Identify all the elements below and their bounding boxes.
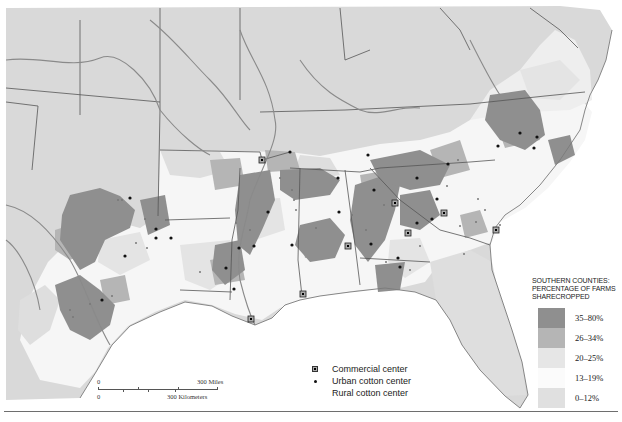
legend-title: SOUTHERN COUNTIES: PERCENTAGE OF FARMS S…: [532, 277, 622, 301]
scale-miles-label: 300 Miles: [197, 378, 223, 385]
scale-tick: [178, 387, 179, 390]
symbol-label: Urban cotton center: [332, 376, 411, 386]
scale-tick: [175, 389, 176, 392]
scale-tick: [98, 387, 99, 390]
scale-tick: [123, 389, 124, 392]
symbol-commercial-center: Commercial center: [318, 363, 411, 375]
symbol-urban-cotton-center: Urban cotton center: [318, 375, 411, 387]
legend-label: 35–80%: [575, 313, 603, 323]
scale-km-label: 300 Kilometers: [167, 393, 207, 400]
scale-tick: [138, 387, 139, 390]
legend-label: 26–34%: [575, 333, 603, 343]
legend-label: 13–19%: [575, 373, 603, 383]
legend-label: 0–12%: [575, 393, 599, 403]
commercial-center-icon: [312, 366, 318, 372]
legend-title-line: PERCENTAGE OF FARMS: [532, 285, 622, 293]
scale-line: [98, 389, 218, 390]
legend-class-35-80: 35–80%: [538, 308, 622, 328]
legend-swatch: [538, 368, 565, 388]
legend-title-line: SHARECROPPED: [532, 293, 622, 301]
bottom-rule: [4, 411, 618, 412]
urban-center-dot-icon: [314, 380, 317, 383]
sharecropping-legend: SOUTHERN COUNTIES: PERCENTAGE OF FARMS S…: [538, 277, 622, 408]
legend-class-13-19: 13–19%: [538, 368, 622, 388]
legend-swatch: [538, 348, 565, 368]
legend-swatch: [538, 328, 565, 348]
scale-tick: [148, 389, 149, 392]
legend-title-line: SOUTHERN COUNTIES:: [532, 277, 622, 285]
symbol-legend: Commercial center Urban cotton center Ru…: [318, 363, 411, 399]
legend-label: 20–25%: [575, 353, 603, 363]
legend-class-0-12: 0–12%: [538, 388, 622, 408]
legend-swatch: [538, 308, 565, 328]
scale-bar: 0 300 Miles 0 300 Kilometers: [95, 378, 225, 408]
sharecropping-map: [0, 0, 622, 412]
symbol-label: Rural cotton center: [332, 388, 408, 398]
legend-swatch: [538, 388, 565, 408]
scale-zero-km: 0: [97, 393, 100, 400]
symbol-label: Commercial center: [332, 364, 408, 374]
legend-class-26-34: 26–34%: [538, 328, 622, 348]
legend-class-20-25: 20–25%: [538, 348, 622, 368]
symbol-rural-cotton-center: Rural cotton center: [318, 387, 411, 399]
scale-tick: [217, 387, 218, 390]
scale-zero-miles: 0: [97, 378, 100, 385]
